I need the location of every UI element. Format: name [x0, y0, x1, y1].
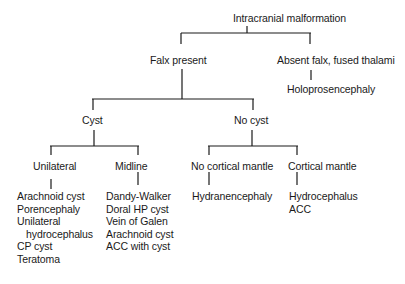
leaf-item: Arachnoid cyst — [106, 228, 173, 241]
leaf-item: Arachnoid cyst — [17, 190, 93, 203]
leaf-item: Teratoma — [17, 253, 93, 266]
falx-present-node: Falx present — [150, 54, 207, 66]
no-cyst-node: No cyst — [234, 114, 268, 126]
no-cortical-mantle-node: No cortical mantle — [191, 160, 273, 172]
leaf-item: Vein of Galen — [106, 215, 173, 228]
unilateral-leaf-list: Arachnoid cyst Porencephaly Unilateral h… — [17, 190, 93, 266]
leaf-item: Hydranencephaly — [192, 190, 272, 203]
absent-falx-node: Absent falx, fused thalami — [277, 54, 395, 66]
leaf-item: hydrocephalus — [17, 228, 93, 241]
holoprosencephaly-node: Holoprosencephaly — [287, 83, 375, 95]
midline-node: Midline — [115, 160, 148, 172]
leaf-item: ACC — [289, 203, 358, 216]
no-cortical-leaf-list: Hydranencephaly — [192, 190, 272, 203]
leaf-item: Unilateral — [17, 215, 93, 228]
leaf-item: Dandy-Walker — [106, 190, 173, 203]
leaf-item: CP cyst — [17, 240, 93, 253]
cortical-leaf-list: Hydrocephalus ACC — [289, 190, 358, 215]
cortical-mantle-node: Cortical mantle — [288, 160, 357, 172]
midline-leaf-list: Dandy-Walker Doral HP cyst Vein of Galen… — [106, 190, 173, 253]
leaf-item: ACC with cyst — [106, 240, 173, 253]
diagram-canvas: Intracranial malformation Falx present A… — [0, 0, 405, 284]
unilateral-node: Unilateral — [33, 160, 76, 172]
leaf-item: Porencephaly — [17, 203, 93, 216]
root-node: Intracranial malformation — [233, 12, 346, 24]
leaf-item: Doral HP cyst — [106, 203, 173, 216]
cyst-node: Cyst — [82, 114, 103, 126]
leaf-item: Hydrocephalus — [289, 190, 358, 203]
